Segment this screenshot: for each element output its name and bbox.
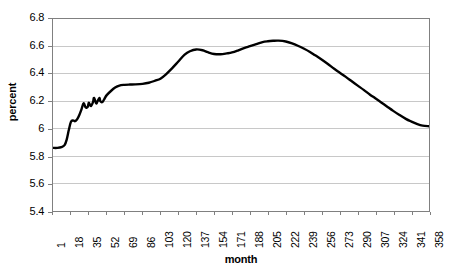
y-tick-mark [48, 157, 52, 158]
x-tick-mark [268, 212, 269, 215]
x-tick-label: 137 [200, 231, 211, 248]
x-tick-mark [196, 212, 197, 215]
y-tick-mark [48, 73, 52, 74]
data-series-line [53, 19, 429, 211]
plot-area [52, 18, 430, 212]
x-tick-mark [160, 212, 161, 215]
y-tick-mark [48, 129, 52, 130]
x-tick-label: 205 [272, 231, 283, 248]
x-tick-mark [340, 212, 341, 215]
x-tick-label: 273 [344, 231, 355, 248]
x-tick-label: 171 [236, 231, 247, 248]
x-tick-mark [214, 212, 215, 215]
x-tick-label: 52 [110, 237, 121, 248]
x-tick-mark [232, 212, 233, 215]
x-tick-label: 239 [308, 231, 319, 248]
x-tick-mark [142, 212, 143, 215]
y-tick-label: 5.4 [16, 206, 44, 217]
x-tick-label: 222 [290, 231, 301, 248]
x-tick-label: 1 [56, 242, 67, 248]
y-tick-mark [48, 46, 52, 47]
line-chart: percent 6.86.66.46.265.85.65.4 118355269… [0, 0, 450, 275]
x-tick-mark [322, 212, 323, 215]
y-tick-label: 6.2 [16, 95, 44, 106]
y-tick-mark [48, 212, 52, 213]
x-tick-label: 86 [146, 237, 157, 248]
x-tick-mark [250, 212, 251, 215]
y-tick-label: 6.6 [16, 40, 44, 51]
x-tick-label: 188 [254, 231, 265, 248]
y-tick-mark [48, 101, 52, 102]
x-tick-label: 256 [326, 231, 337, 248]
x-tick-mark [304, 212, 305, 215]
y-tick-label: 5.8 [16, 151, 44, 162]
x-tick-mark [358, 212, 359, 215]
y-tick-mark [48, 184, 52, 185]
y-tick-label: 5.6 [16, 178, 44, 189]
y-tick-label: 6.4 [16, 67, 44, 78]
x-tick-label: 103 [164, 231, 175, 248]
y-tick-mark [48, 18, 52, 19]
x-tick-label: 358 [434, 231, 445, 248]
x-tick-mark [430, 212, 431, 215]
x-tick-mark [88, 212, 89, 215]
x-tick-label: 120 [182, 231, 193, 248]
x-tick-mark [286, 212, 287, 215]
x-tick-label: 154 [218, 231, 229, 248]
x-tick-mark [52, 212, 53, 215]
y-tick-label: 6.8 [16, 12, 44, 23]
x-tick-label: 341 [416, 231, 427, 248]
x-tick-mark [178, 212, 179, 215]
x-axis-title: month [52, 253, 430, 265]
x-tick-label: 307 [380, 231, 391, 248]
x-tick-mark [394, 212, 395, 215]
x-axis-tick-labels: 1183552698610312013715417118820522223925… [52, 212, 430, 252]
x-tick-label: 69 [128, 237, 139, 248]
x-tick-label: 18 [74, 237, 85, 248]
x-tick-mark [124, 212, 125, 215]
x-tick-label: 290 [362, 231, 373, 248]
x-tick-label: 324 [398, 231, 409, 248]
x-tick-label: 35 [92, 237, 103, 248]
y-axis-tick-labels: 6.86.66.46.265.85.65.4 [14, 0, 44, 275]
y-tick-label: 6 [16, 123, 44, 134]
x-tick-mark [106, 212, 107, 215]
x-tick-mark [70, 212, 71, 215]
x-tick-mark [412, 212, 413, 215]
x-tick-mark [376, 212, 377, 215]
